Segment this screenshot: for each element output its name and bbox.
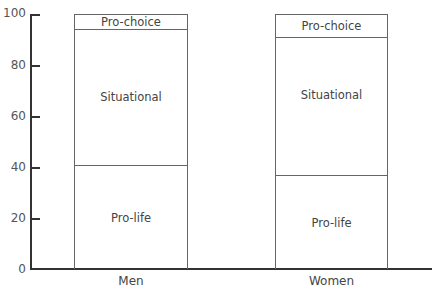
label-women-prochoice: Pro-choice <box>302 19 362 33</box>
label-women-situational: Situational <box>301 88 363 102</box>
x-label-women: Women <box>275 274 388 288</box>
label-men-prolife: Pro-life <box>111 211 151 225</box>
x-label-men: Men <box>74 274 188 288</box>
y-tick-label-100: 100 <box>0 7 26 19</box>
label-women-prolife: Pro-life <box>311 216 351 230</box>
segment-women-prolife: Pro-life <box>276 175 387 270</box>
y-tick-label-80: 80 <box>0 59 26 71</box>
y-axis <box>30 14 32 270</box>
stacked-bar-chart: 100 80 60 40 20 0 Pro-choice Situational… <box>0 0 432 294</box>
segment-women-prochoice: Pro-choice <box>276 15 387 37</box>
y-tick-40 <box>31 167 40 169</box>
segment-men-prolife: Pro-life <box>75 165 187 270</box>
y-tick-20 <box>31 218 40 220</box>
label-men-prochoice: Pro-choice <box>101 15 161 29</box>
y-tick-label-40: 40 <box>0 161 26 173</box>
label-men-situational: Situational <box>100 90 162 104</box>
segment-women-situational: Situational <box>276 37 387 175</box>
y-tick-label-0: 0 <box>0 263 26 275</box>
y-tick-100 <box>31 14 40 16</box>
bar-men: Pro-choice Situational Pro-life <box>74 14 188 269</box>
y-tick-60 <box>31 116 40 118</box>
segment-men-prochoice: Pro-choice <box>75 15 187 29</box>
bar-women: Pro-choice Situational Pro-life <box>275 14 388 269</box>
y-tick-80 <box>31 65 40 67</box>
y-tick-label-20: 20 <box>0 212 26 224</box>
segment-men-situational: Situational <box>75 29 187 165</box>
y-tick-label-60: 60 <box>0 110 26 122</box>
